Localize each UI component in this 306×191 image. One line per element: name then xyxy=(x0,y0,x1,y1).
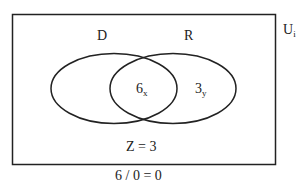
set-d-label: D xyxy=(97,29,107,43)
r-only-value: 3y xyxy=(195,82,207,98)
set-d-ellipse xyxy=(51,54,177,124)
intersection-value: 6x xyxy=(136,82,148,98)
universe-label: Ui xyxy=(283,23,296,39)
caption: 6 / 0 = 0 xyxy=(115,169,162,183)
set-r-ellipse xyxy=(110,54,236,124)
set-r-label: R xyxy=(184,29,193,43)
venn-diagram-svg xyxy=(0,0,306,191)
outside-value: Z = 3 xyxy=(126,140,156,154)
